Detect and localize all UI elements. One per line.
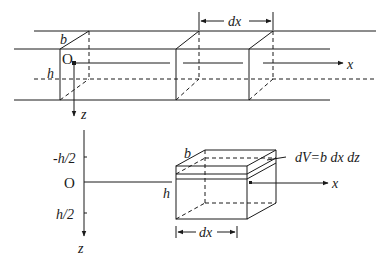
height-label-bottom: h bbox=[163, 186, 170, 201]
beam-element-diagram: x O z b h dx z -h/2 O h/2 bbox=[0, 0, 380, 263]
origin-label-bottom: O bbox=[64, 175, 75, 191]
origin-label-top: O bbox=[62, 51, 73, 67]
width-label-bottom: b bbox=[184, 146, 191, 161]
differential-strip bbox=[176, 158, 276, 179]
middle-cross-section bbox=[176, 31, 199, 100]
element-cube bbox=[176, 150, 276, 219]
z-axis-label-bottom: z bbox=[77, 241, 84, 256]
top-coord-label: -h/2 bbox=[53, 151, 76, 166]
height-label-top: h bbox=[47, 66, 54, 81]
x-axis-label-top: x bbox=[346, 57, 354, 72]
dx-label-bottom: dx bbox=[199, 225, 213, 240]
dx-label-top: dx bbox=[228, 14, 242, 29]
width-label-top: b bbox=[60, 32, 67, 47]
z-axis-label-top: z bbox=[80, 107, 87, 122]
bottom-coord-label: h/2 bbox=[56, 207, 74, 222]
right-cross-section bbox=[249, 31, 273, 100]
element-detail-view: z -h/2 O h/2 bbox=[53, 130, 360, 256]
volume-element-label: dV=b dx dz bbox=[295, 150, 360, 165]
beam-3d-view: x O z b h dx bbox=[14, 12, 376, 122]
x-axis-label-bottom: x bbox=[331, 176, 339, 191]
